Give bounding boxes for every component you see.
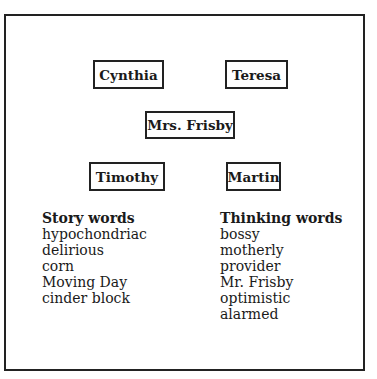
name-box-martin: Martin xyxy=(226,162,281,191)
story-words-list: Story words hypochondriac delirious corn… xyxy=(42,210,147,306)
name-box-timothy: Timothy xyxy=(89,162,165,191)
name-box-cynthia: Cynthia xyxy=(93,60,164,89)
name-box-mrs-frisby: Mrs. Frisby xyxy=(145,111,235,139)
list-item: alarmed xyxy=(220,306,342,322)
list-item: bossy xyxy=(220,226,342,242)
list-item: provider xyxy=(220,258,342,274)
name-box-teresa: Teresa xyxy=(225,60,288,89)
list-item: Moving Day xyxy=(42,274,147,290)
list-item: Mr. Frisby xyxy=(220,274,342,290)
list-item: delirious xyxy=(42,242,147,258)
list-item: hypochondriac xyxy=(42,226,147,242)
list-item: corn xyxy=(42,258,147,274)
list-item: cinder block xyxy=(42,290,147,306)
thinking-words-list: Thinking words bossy motherly provider M… xyxy=(220,210,342,322)
thinking-words-heading: Thinking words xyxy=(220,210,342,226)
list-item: optimistic xyxy=(220,290,342,306)
list-item: motherly xyxy=(220,242,342,258)
story-words-heading: Story words xyxy=(42,210,147,226)
